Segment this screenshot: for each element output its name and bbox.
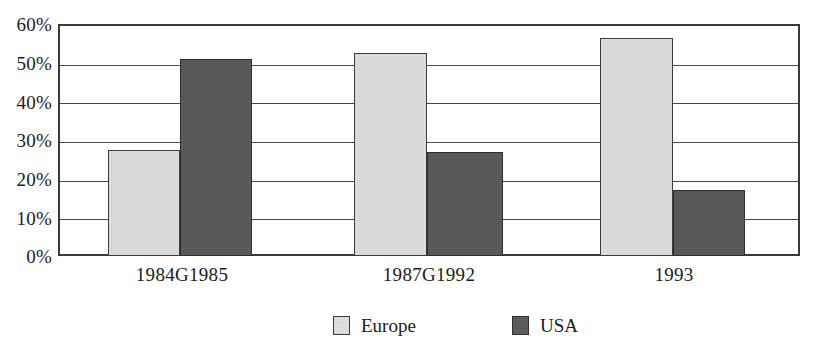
bar-europe-1993[interactable] <box>600 38 673 256</box>
legend-entry-usa[interactable]: USA <box>512 313 578 337</box>
chart-legend: Europe USA <box>0 313 815 343</box>
x-tick-label-1993: 1993 <box>602 264 746 286</box>
y-tick-label-40: 40% <box>0 93 52 112</box>
legend-entry-europe[interactable]: Europe <box>333 313 416 337</box>
y-axis: 60% 50% 40% 30% 20% 10% 0% <box>0 0 52 290</box>
bar-usa-1987G1992[interactable] <box>427 152 503 256</box>
y-tick-label-0: 0% <box>0 247 52 266</box>
bar-europe-1987G1992[interactable] <box>354 53 427 256</box>
legend-label-europe: Europe <box>361 316 416 335</box>
y-tick-label-20: 20% <box>0 170 52 189</box>
legend-label-usa: USA <box>540 316 578 335</box>
bar-usa-1984G1985[interactable] <box>180 59 252 256</box>
y-tick-label-10: 10% <box>0 209 52 228</box>
usa-swatch-icon <box>512 316 529 335</box>
x-axis: 1984G1985 1987G1992 1993 <box>58 264 800 294</box>
y-tick-label-30: 30% <box>0 131 52 150</box>
x-tick-label-1987G1992: 1987G1992 <box>356 264 502 286</box>
x-tick-label-1984G1985: 1984G1985 <box>110 264 254 286</box>
europe-swatch-icon <box>333 316 350 335</box>
bars-layer <box>58 24 800 256</box>
bar-europe-1984G1985[interactable] <box>108 150 180 256</box>
y-tick-label-50: 50% <box>0 54 52 73</box>
bar-chart-figure: 60% 50% 40% 30% 20% 10% 0% 1984G1985 198… <box>0 0 815 354</box>
y-tick-label-60: 60% <box>0 15 52 34</box>
bar-usa-1993[interactable] <box>673 190 745 256</box>
